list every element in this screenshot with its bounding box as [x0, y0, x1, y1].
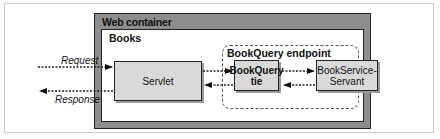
flow-arrows [0, 0, 440, 139]
